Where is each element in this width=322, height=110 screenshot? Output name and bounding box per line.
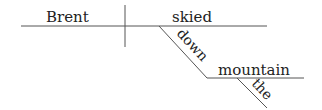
sentence-diagram: Brent skied down mountain the xyxy=(0,0,322,110)
preposition-word: down xyxy=(174,25,212,64)
object-word: mountain xyxy=(218,61,290,79)
verb-word: skied xyxy=(172,8,212,26)
subject-word: Brent xyxy=(46,8,89,26)
article-word: the xyxy=(249,75,276,103)
